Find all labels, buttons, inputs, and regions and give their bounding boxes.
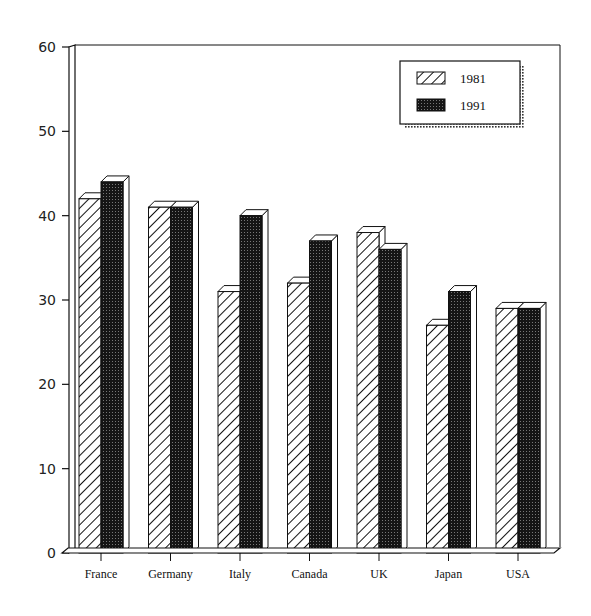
y-tick-label: 20: [38, 376, 56, 392]
legend: 1981 1991: [400, 61, 525, 129]
x-category-label: Japan: [435, 567, 462, 581]
y-tick-label: 0: [47, 545, 56, 561]
bar-canada-1991: [310, 241, 332, 553]
x-category-label: France: [85, 567, 118, 581]
bar-germany-1991: [171, 207, 193, 553]
bar-italy-1991: [240, 216, 262, 553]
bar-group-canada: [288, 235, 338, 553]
bar-group-uk: [357, 227, 407, 553]
bar-japan-1991: [449, 292, 471, 553]
bar-usa-1991: [518, 308, 540, 553]
bar-france-1991: [101, 182, 123, 553]
y-tick-label: 10: [38, 461, 56, 477]
bar-canada-1981: [288, 283, 310, 553]
bar-japan-1981: [427, 325, 449, 553]
bar-group-italy: [218, 210, 268, 553]
x-category-label: UK: [370, 567, 388, 581]
x-axis: FranceGermanyItalyCanadaUKJapanUSA: [62, 548, 560, 581]
legend-label-1991: 1991: [460, 98, 486, 113]
bars: [79, 176, 546, 553]
bar-group-japan: [427, 286, 477, 553]
bar-usa-1981: [496, 308, 518, 553]
legend-swatch-1981: [417, 72, 445, 84]
bar-chart: 0102030405060 FranceGermanyItalyCanadaUK…: [0, 0, 591, 616]
bar-france-1981: [79, 199, 101, 553]
bar-germany-1981: [149, 207, 171, 553]
y-tick-label: 40: [38, 208, 56, 224]
bar-group-france: [79, 176, 129, 553]
bar-group-germany: [149, 201, 199, 553]
x-category-label: USA: [506, 567, 530, 581]
legend-label-1981: 1981: [460, 71, 486, 86]
legend-swatch-1991: [417, 99, 445, 111]
bar-uk-1981: [357, 233, 379, 553]
y-tick-label: 30: [38, 292, 56, 308]
y-tick-label: 60: [38, 39, 56, 55]
bar-group-usa: [496, 302, 546, 553]
x-category-label: Canada: [292, 567, 329, 581]
x-category-label: Italy: [229, 567, 251, 581]
bar-uk-1991: [379, 249, 401, 553]
x-category-label: Germany: [148, 567, 193, 581]
bar-italy-1981: [218, 292, 240, 553]
y-tick-label: 50: [38, 123, 56, 139]
